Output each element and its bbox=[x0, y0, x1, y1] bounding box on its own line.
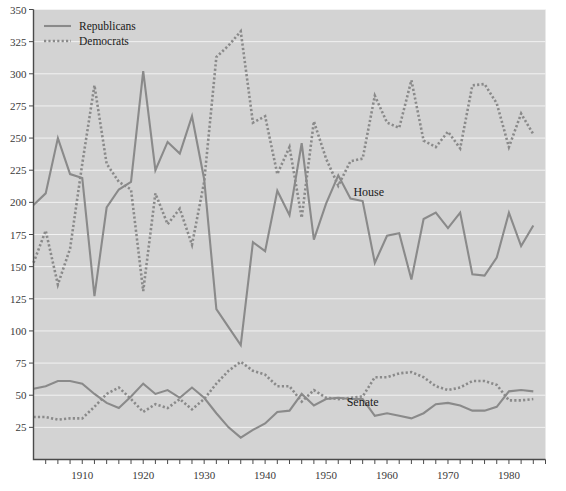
y-tick-label-125: 125 bbox=[10, 293, 27, 305]
x-tick-label-1930: 1930 bbox=[193, 469, 216, 481]
plot-canvas: 255075100125150175200225250275300325350 … bbox=[0, 0, 566, 491]
y-tick-label-275: 275 bbox=[10, 100, 27, 112]
annotation-house: House bbox=[353, 185, 384, 199]
y-tick-label-25: 25 bbox=[16, 421, 28, 433]
y-tick-label-200: 200 bbox=[10, 196, 27, 208]
y-axis-tick-labels: 255075100125150175200225250275300325350 bbox=[10, 4, 27, 434]
legend-label-republicans: Republicans bbox=[79, 20, 136, 33]
y-tick-label-175: 175 bbox=[10, 229, 27, 241]
x-tick-label-1910: 1910 bbox=[71, 469, 94, 481]
y-tick-label-250: 250 bbox=[10, 132, 27, 144]
legend-label-democrats: Democrats bbox=[79, 35, 129, 47]
x-tick-label-1950: 1950 bbox=[315, 469, 338, 481]
chart-screenshot: 255075100125150175200225250275300325350 … bbox=[0, 0, 566, 491]
x-tick-label-1980: 1980 bbox=[498, 469, 521, 481]
y-tick-label-300: 300 bbox=[10, 68, 27, 80]
congress-party-strength-chart: 255075100125150175200225250275300325350 … bbox=[0, 0, 566, 491]
y-tick-label-225: 225 bbox=[10, 164, 27, 176]
x-tick-label-1970: 1970 bbox=[437, 469, 460, 481]
x-tick-label-1940: 1940 bbox=[254, 469, 277, 481]
x-axis-tick-labels: 19101920193019401950196019701980 bbox=[71, 469, 520, 481]
y-tick-label-75: 75 bbox=[16, 357, 28, 369]
y-tick-label-50: 50 bbox=[16, 389, 28, 401]
x-tick-label-1920: 1920 bbox=[132, 469, 155, 481]
y-tick-label-100: 100 bbox=[10, 325, 27, 337]
x-tick-label-1960: 1960 bbox=[376, 469, 399, 481]
y-tick-label-325: 325 bbox=[10, 36, 27, 48]
y-tick-label-150: 150 bbox=[10, 261, 27, 273]
annotation-senate: Senate bbox=[347, 395, 379, 409]
y-tick-label-350: 350 bbox=[10, 4, 27, 16]
